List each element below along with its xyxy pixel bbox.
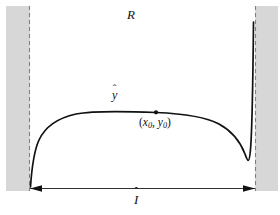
i-hat-wrapper: ˆ I: [134, 193, 138, 206]
interval-right-arrowhead: [243, 185, 255, 192]
curve-label-y-hat: ˆ y: [112, 89, 117, 101]
solution-curve: [31, 22, 254, 187]
left-shaded-band: [6, 6, 30, 191]
right-shaded-band: [255, 6, 278, 191]
marked-point-dot: [154, 110, 158, 114]
region-label-R: R: [127, 8, 135, 21]
close-paren: ): [167, 116, 171, 128]
figure-canvas: R ˆ y ˆ I (x0, y0): [0, 0, 280, 215]
figure-graphics: [0, 0, 280, 215]
interval-axis-group: [30, 185, 255, 192]
interval-left-arrowhead: [30, 185, 42, 192]
hat-accent-icon: ˆ: [113, 83, 117, 94]
initial-condition-label: (x0, y0): [139, 117, 171, 131]
hat-accent-icon: ˆ: [134, 187, 138, 199]
y-hat-wrapper: ˆ y: [112, 89, 117, 101]
solution-curve-group: [31, 22, 254, 187]
interval-label-I-hat: ˆ I: [134, 193, 138, 206]
